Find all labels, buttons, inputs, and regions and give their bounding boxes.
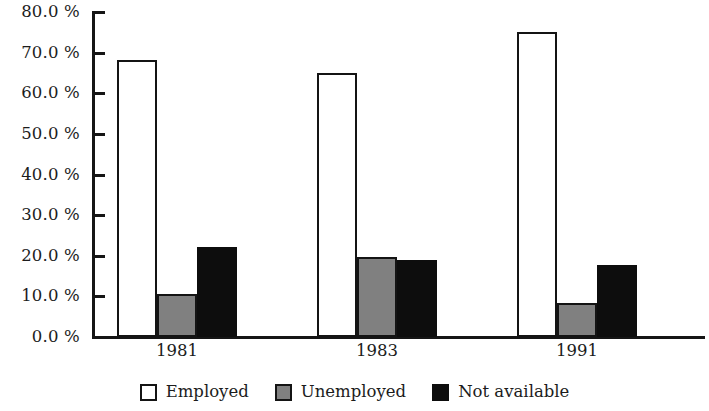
bar-1991-unemployed	[557, 303, 597, 337]
y-axis-tick-label: 40.0 %	[2, 167, 80, 184]
y-axis-tick-label: 20.0 %	[2, 248, 80, 265]
bar-1981-employed	[117, 60, 157, 337]
x-axis-category-label: 1991	[537, 343, 617, 360]
legend-entry: Not available	[432, 384, 569, 401]
bar-chart: 0.0 %10.0 %20.0 %30.0 %40.0 %50.0 %60.0 …	[0, 0, 709, 411]
y-axis-tick-label: 10.0 %	[2, 288, 80, 305]
legend-swatch-not-available	[432, 384, 449, 401]
y-axis-tick-label: 70.0 %	[2, 45, 80, 62]
plot-area	[92, 12, 705, 337]
legend-entry: Employed	[140, 384, 249, 401]
bar-1983-employed	[317, 73, 357, 337]
bar-1981-unemployed	[157, 294, 197, 337]
chart-legend: EmployedUnemployedNot available	[0, 377, 709, 407]
y-axis-tick-label: 30.0 %	[2, 207, 80, 224]
y-axis-tick-label: 50.0 %	[2, 126, 80, 143]
legend-label: Unemployed	[301, 384, 406, 401]
y-axis-tick-label: 80.0 %	[2, 4, 80, 21]
x-axis-category-label: 1983	[337, 343, 417, 360]
bar-1983-not-available	[397, 260, 437, 337]
legend-label: Employed	[166, 384, 249, 401]
legend-swatch-unemployed	[275, 384, 292, 401]
bar-1991-employed	[517, 32, 557, 337]
y-axis-tick-label: 60.0 %	[2, 85, 80, 102]
bar-1981-not-available	[197, 247, 237, 337]
legend-label: Not available	[458, 384, 569, 401]
y-axis-tick-label: 0.0 %	[2, 329, 80, 346]
x-axis-category-label: 1981	[137, 343, 217, 360]
legend-entry: Unemployed	[275, 384, 406, 401]
y-axis-tick-label-group: 0.0 %10.0 %20.0 %30.0 %40.0 %50.0 %60.0 …	[0, 0, 80, 411]
bar-1991-not-available	[597, 265, 637, 337]
bar-1983-unemployed	[357, 257, 397, 337]
legend-swatch-employed	[140, 384, 157, 401]
